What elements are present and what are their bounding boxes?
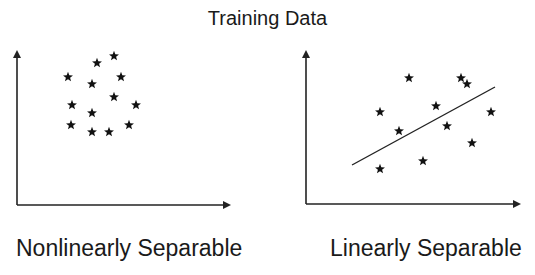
star-icon bbox=[462, 79, 472, 88]
star-icon bbox=[431, 101, 441, 110]
star-icon bbox=[375, 164, 385, 173]
star-icon bbox=[442, 121, 452, 130]
star-icon bbox=[467, 138, 477, 147]
star-icon bbox=[67, 100, 77, 109]
caption-linearly-separable: Linearly Separable bbox=[330, 234, 515, 262]
star-icon bbox=[66, 120, 76, 129]
star-icon bbox=[63, 72, 73, 81]
star-icon bbox=[404, 73, 414, 82]
decision-boundary-line bbox=[352, 87, 495, 165]
star-icon bbox=[109, 51, 119, 60]
caption-nonlinearly-separable: Nonlinearly Separable bbox=[16, 234, 234, 262]
star-icon bbox=[486, 107, 496, 116]
star-icon bbox=[418, 156, 428, 165]
star-icon bbox=[87, 79, 97, 88]
star-icon bbox=[109, 92, 119, 101]
panel-linear bbox=[306, 52, 519, 204]
star-icon bbox=[104, 127, 114, 136]
star-icon bbox=[131, 100, 141, 109]
star-icon bbox=[456, 73, 466, 82]
star-icon bbox=[375, 107, 385, 116]
star-icon bbox=[87, 108, 97, 117]
panel-nonlinear bbox=[17, 51, 229, 205]
star-icon bbox=[92, 58, 102, 67]
star-icon bbox=[87, 127, 97, 136]
star-icon bbox=[116, 72, 126, 81]
star-icon bbox=[394, 126, 404, 135]
star-icon bbox=[124, 120, 134, 129]
